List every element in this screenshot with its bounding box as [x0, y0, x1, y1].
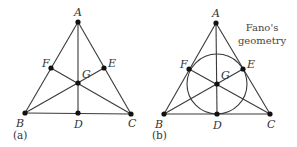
point-C	[128, 111, 133, 116]
point-label-G: G	[221, 69, 230, 82]
point-label-D: D	[212, 119, 222, 132]
point-B	[161, 111, 166, 116]
point-label-E: E	[246, 58, 255, 71]
figure-title-line-2: geometry	[238, 35, 287, 46]
line-BE	[164, 69, 243, 114]
point-A	[75, 19, 80, 24]
point-B	[22, 110, 27, 115]
panel-b-caption: (b)	[152, 129, 167, 141]
point-G	[214, 81, 219, 86]
point-label-F: F	[41, 57, 50, 70]
point-label-A: A	[73, 6, 82, 19]
point-label-C: C	[128, 117, 137, 130]
panel-a: ABCDEFG	[15, 6, 137, 131]
point-label-E: E	[107, 57, 116, 70]
fano-geometry-diagram: ABCDEFG ABCDEFG Fano's geometry (a) (b)	[0, 0, 297, 147]
line-BE	[25, 68, 104, 113]
point-label-F: F	[179, 58, 188, 71]
line-AD	[216, 23, 217, 114]
point-E	[101, 65, 106, 70]
point-C	[267, 111, 272, 116]
panel-a-caption: (a)	[13, 129, 27, 141]
point-label-C: C	[267, 118, 276, 131]
point-label-G: G	[82, 68, 91, 81]
point-A	[213, 20, 218, 25]
point-G	[75, 80, 80, 85]
point-D	[214, 111, 219, 116]
figure-title-line-1: Fano's	[246, 22, 279, 33]
point-D	[75, 110, 80, 115]
point-label-D: D	[73, 118, 83, 131]
point-E	[240, 66, 245, 71]
point-label-A: A	[211, 7, 220, 20]
